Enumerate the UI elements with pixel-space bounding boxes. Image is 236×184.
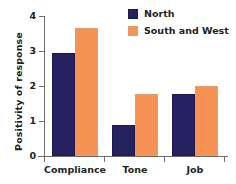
y-tick-3: 3 bbox=[39, 51, 44, 52]
y-tick-label-3: 3 bbox=[29, 45, 36, 57]
x-tick-group-2 bbox=[164, 157, 165, 162]
y-tick-label-0: 0 bbox=[29, 150, 36, 162]
y-tick-4: 4 bbox=[39, 16, 44, 17]
bar-north-job bbox=[172, 94, 195, 156]
y-tick-label-4: 4 bbox=[29, 10, 36, 22]
x-axis-line bbox=[38, 156, 228, 157]
y-axis-line bbox=[44, 16, 45, 157]
legend-swatch-south-and-west-icon bbox=[128, 26, 138, 36]
bar-north-tone bbox=[112, 125, 135, 157]
legend-label-north: North bbox=[144, 8, 174, 19]
bar-southwest-job bbox=[195, 86, 218, 156]
bar-chart: Positivity of response 0 1 2 3 4 bbox=[0, 0, 236, 184]
y-tick-label-1: 1 bbox=[29, 115, 36, 127]
legend: North South and West bbox=[128, 8, 229, 42]
y-tick-1: 1 bbox=[39, 121, 44, 122]
legend-item-north: North bbox=[128, 8, 229, 19]
bar-southwest-compliance bbox=[75, 28, 98, 156]
y-tick-label-2: 2 bbox=[29, 80, 36, 92]
legend-swatch-north-icon bbox=[128, 9, 138, 19]
x-tick-start bbox=[44, 157, 45, 162]
legend-label-south-and-west: South and West bbox=[144, 25, 229, 36]
x-label-tone: Tone bbox=[123, 164, 148, 175]
bar-north-compliance bbox=[52, 53, 75, 156]
bar-southwest-tone bbox=[135, 94, 158, 156]
x-label-compliance: Compliance bbox=[44, 164, 106, 175]
y-axis-title: Positivity of response bbox=[13, 27, 24, 157]
x-tick-group-1 bbox=[104, 157, 105, 162]
y-tick-2: 2 bbox=[39, 86, 44, 87]
legend-item-south-and-west: South and West bbox=[128, 25, 229, 36]
x-tick-end bbox=[224, 157, 225, 162]
x-label-job: Job bbox=[187, 164, 204, 175]
